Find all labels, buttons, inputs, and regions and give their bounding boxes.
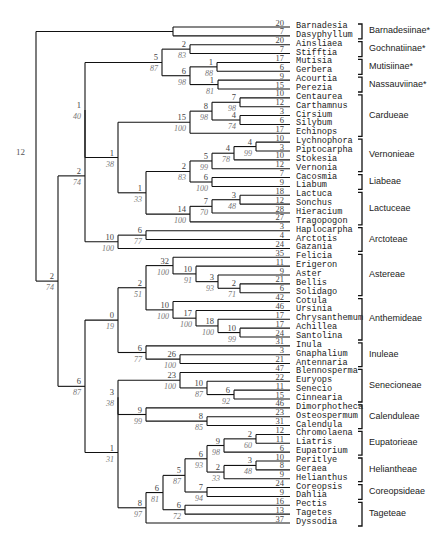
tribe-label: Coreopsideae: [369, 486, 425, 496]
tribe-bracket: [358, 175, 362, 190]
bootstrap-label: 60: [244, 441, 252, 450]
branch-length-label: 26: [168, 349, 177, 359]
tribe-label: Nassauviinae*: [369, 79, 427, 89]
bootstrap-label: 38: [105, 160, 114, 169]
tribe-bracket: [358, 502, 362, 526]
bootstrap-label: 100: [174, 216, 186, 225]
branch-length-label: 23: [168, 370, 177, 380]
bootstrap-label: 78: [222, 155, 230, 164]
branch-length-label: 6: [138, 225, 142, 235]
tribe-label: Barnadesiinae*: [369, 25, 430, 35]
tribe-label: Heliantheae: [369, 464, 417, 474]
bootstrap-label: 51: [134, 290, 142, 299]
branch-length-label: 2: [182, 39, 186, 49]
bootstrap-label: 99: [200, 163, 208, 172]
branch-length-label: 8: [204, 101, 208, 111]
branch-length-label: 7: [199, 482, 203, 492]
branch-length-label: 3: [110, 387, 114, 397]
bootstrap-label: 100: [202, 328, 214, 337]
bootstrap-label: 91: [184, 276, 192, 285]
tribe-label: Senecioneae: [369, 380, 422, 390]
leaf-branch-length: 37: [276, 514, 285, 524]
tribe-bracket: [358, 369, 362, 402]
tribe-label: Liabeae: [369, 176, 401, 186]
bootstrap-label: 74: [73, 178, 81, 187]
branch-length-label: 3: [210, 272, 214, 282]
tribe-label: Vernonieae: [369, 149, 415, 159]
bootstrap-label: 100: [157, 268, 169, 277]
branch-length-label: 32: [161, 256, 170, 266]
tribe-bracket: [358, 139, 362, 172]
branch-length-label: 6: [204, 172, 208, 182]
tribe-bracket: [358, 431, 362, 455]
tribe-bracket: [358, 59, 362, 74]
branch-length-label: 17: [184, 308, 193, 318]
bootstrap-label: 93: [195, 461, 203, 470]
branch-length-label: 1: [138, 183, 142, 193]
bootstrap-label: 83: [178, 51, 186, 60]
bootstrap-label: 48: [244, 467, 252, 476]
bootstrap-label: 99: [134, 417, 142, 426]
bootstrap-label: 74: [228, 122, 236, 131]
branch-length-label: 15: [178, 112, 187, 122]
branch-length-label: 3: [248, 455, 252, 465]
root-length-label: 12: [16, 147, 25, 157]
branch-length-label: 6: [155, 483, 159, 493]
branch-length-label: 2: [50, 271, 54, 281]
branch-length-label: 6: [77, 376, 81, 386]
branch-length-label: 18: [206, 316, 215, 326]
tribe-label: Arctoteae: [369, 234, 408, 244]
branch-length-label: 2: [182, 161, 186, 171]
bootstrap-label: 100: [157, 312, 169, 321]
bootstrap-label: 97: [134, 510, 143, 519]
branch-length-label: 4: [226, 143, 231, 153]
branch-length-label: 2: [216, 462, 220, 472]
tribe-bracket: [358, 458, 362, 482]
taxon-label: Dyssodia: [296, 518, 337, 527]
branch-length-label: 2: [138, 278, 142, 288]
bootstrap-label: 81: [151, 495, 159, 504]
branch-length-label: 1: [110, 443, 114, 453]
tribe-label: Inuleae: [369, 349, 399, 359]
tribe-label: Astereae: [369, 269, 405, 279]
tribe-label: Gochnatiinae*: [369, 43, 426, 53]
branch-length-label: 0: [110, 310, 114, 320]
bootstrap-label: 100: [174, 124, 186, 133]
branch-length-label: 6: [226, 385, 230, 395]
bootstrap-label: 74: [46, 283, 54, 292]
branch-length-label: 2: [77, 166, 81, 176]
tribe-bracket: [358, 485, 362, 500]
branch-length-label: 8: [138, 498, 142, 508]
branch-length-label: 10: [228, 323, 237, 333]
tribe-bracket: [358, 24, 362, 39]
bootstrap-label: 100: [196, 184, 208, 193]
branch-length-label: 8: [199, 411, 203, 421]
bootstrap-label: 98: [212, 448, 220, 457]
bootstrap-label: 70: [200, 208, 208, 217]
branch-length-label: 1: [209, 57, 213, 67]
bootstrap-label: 87: [73, 388, 82, 397]
tribe-label: Calenduleae: [369, 411, 420, 421]
branch-length-label: 5: [177, 465, 181, 475]
branch-length-label: 2: [232, 278, 236, 288]
tribe-label: Eupatorieae: [369, 437, 418, 447]
branch-length-label: 6: [182, 66, 186, 76]
bootstrap-label: 87: [150, 64, 159, 73]
bootstrap-label: 19: [106, 322, 114, 331]
bootstrap-label: 100: [164, 361, 176, 370]
branch-length-label: 3: [232, 190, 236, 200]
tribe-bracket: [358, 77, 362, 92]
bootstrap-label: 98: [178, 78, 186, 87]
branch-length-label: 10: [195, 378, 204, 388]
branch-length-label: 9: [216, 436, 220, 446]
branch-length-label: 10: [161, 300, 170, 310]
bootstrap-label: 81: [206, 87, 214, 96]
branch-length-label: 2: [248, 429, 252, 439]
branch-length-label: 6: [138, 343, 142, 353]
bootstrap-label: 77: [134, 237, 143, 246]
tribe-bracket: [358, 42, 362, 57]
bootstrap-label: 100: [102, 244, 114, 253]
tribe-bracket: [358, 95, 362, 136]
tribe-bracket: [358, 192, 362, 225]
tribe-label: Cardueae: [369, 110, 409, 120]
